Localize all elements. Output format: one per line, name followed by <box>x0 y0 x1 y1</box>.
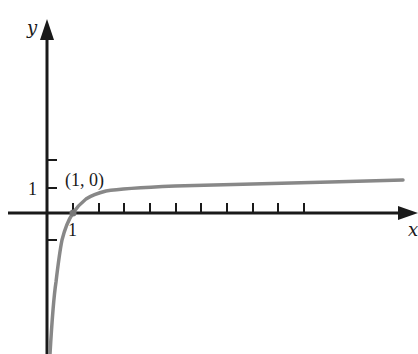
x-axis-label: x <box>408 219 418 240</box>
y-axis-arrow-icon <box>40 19 54 40</box>
y-tick-label-1: 1 <box>28 179 37 199</box>
y-axis-label: y <box>26 17 38 38</box>
point-marker <box>70 210 77 217</box>
log-curve-chart: y 1 x 1 (1, 0) <box>0 0 418 354</box>
point-annotation: (1, 0) <box>65 170 104 191</box>
x-axis-arrow-icon <box>398 206 418 220</box>
